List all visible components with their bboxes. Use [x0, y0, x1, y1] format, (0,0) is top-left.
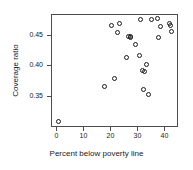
- data-point: [158, 24, 163, 29]
- data-point: [149, 17, 154, 22]
- y-tick-label: 0.40: [19, 61, 43, 69]
- x-tick-mark: [164, 127, 165, 131]
- data-point: [117, 21, 122, 26]
- x-tick-label: 0: [45, 132, 67, 140]
- y-tick-mark: [47, 65, 51, 66]
- x-axis-title: Percent below poverty line: [0, 149, 193, 159]
- x-tick-label: 40: [153, 132, 175, 140]
- plot-area: [51, 14, 178, 127]
- data-point: [138, 17, 143, 22]
- data-point: [115, 30, 120, 35]
- data-point: [112, 76, 117, 81]
- data-point: [168, 23, 173, 28]
- data-point: [169, 29, 174, 34]
- y-tick-mark: [47, 96, 51, 97]
- data-point: [128, 35, 133, 40]
- y-tick-mark: [47, 35, 51, 36]
- y-tick-label: 0.35: [19, 92, 43, 100]
- data-point: [141, 87, 146, 92]
- scatter-plot-figure: 010203040 0.350.400.45 Percent below pov…: [0, 0, 193, 170]
- data-point: [109, 23, 114, 28]
- data-point: [156, 35, 161, 40]
- y-axis-title: Coverage ratio: [10, 14, 22, 127]
- data-point: [102, 84, 107, 89]
- x-tick-label: 30: [126, 132, 148, 140]
- data-point: [142, 69, 147, 74]
- x-tick-mark: [110, 127, 111, 131]
- x-tick-label: 20: [99, 132, 121, 140]
- data-point: [133, 42, 138, 47]
- y-tick-label: 0.45: [19, 31, 43, 39]
- data-point: [155, 16, 160, 21]
- data-point: [144, 62, 149, 67]
- data-point: [146, 92, 151, 97]
- data-point: [56, 119, 61, 124]
- data-point: [137, 53, 142, 58]
- x-tick-mark: [83, 127, 84, 131]
- x-tick-mark: [56, 127, 57, 131]
- x-tick-mark: [137, 127, 138, 131]
- data-point: [124, 55, 129, 60]
- x-tick-label: 10: [72, 132, 94, 140]
- data-points-layer: [52, 15, 177, 126]
